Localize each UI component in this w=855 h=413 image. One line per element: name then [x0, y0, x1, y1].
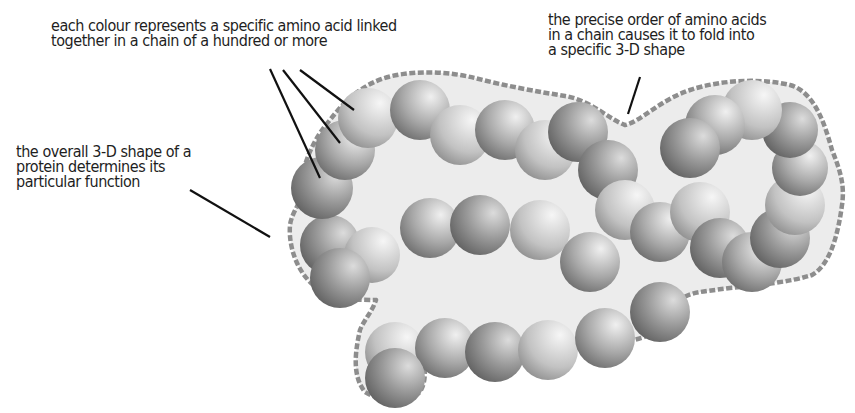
- leader-line-shape: [190, 190, 270, 237]
- amino-acid-sphere: [338, 88, 398, 148]
- amino-acid-sphere: [365, 348, 425, 408]
- label-amino-acid-order: the precise order of amino acids in a ch…: [548, 13, 766, 58]
- amino-acid-sphere: [450, 195, 510, 255]
- protein-diagram: [0, 0, 855, 413]
- amino-acid-sphere: [510, 200, 570, 260]
- amino-acid-chain: [291, 80, 828, 408]
- amino-acid-sphere: [560, 232, 620, 292]
- label-overall-shape: the overall 3-D shape of a protein deter…: [16, 145, 191, 190]
- amino-acid-sphere: [630, 282, 690, 342]
- amino-acid-sphere: [575, 308, 635, 368]
- amino-acid-sphere: [310, 248, 370, 308]
- label-amino-acid-colour: each colour represents a specific amino …: [51, 19, 397, 49]
- amino-acid-sphere: [518, 320, 578, 380]
- amino-acid-sphere: [465, 322, 525, 382]
- amino-acid-sphere: [660, 118, 720, 178]
- leader-line-order: [628, 77, 640, 114]
- leader-line-colour-3: [300, 70, 354, 110]
- leader-line-colour-2: [283, 70, 340, 143]
